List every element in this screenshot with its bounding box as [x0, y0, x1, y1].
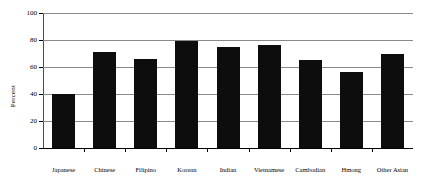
x-tick-label-vietnamese: Vietnamese	[254, 166, 284, 173]
plot-area	[43, 13, 413, 148]
y-tick-label-60: 60	[15, 63, 37, 71]
y-tick-40	[39, 94, 43, 95]
y-tick-0	[39, 148, 43, 149]
y-tick-60	[39, 67, 43, 68]
x-tick-label-hmong: Hmong	[342, 166, 362, 173]
bar-hmong	[340, 72, 363, 148]
bar-cambodian	[299, 60, 322, 148]
x-tick-label-japanese: Japanese	[52, 166, 75, 173]
bar-other-asian	[381, 54, 404, 149]
bar-filipino	[134, 59, 157, 148]
x-tick-4	[207, 149, 208, 152]
bar-chinese	[93, 52, 116, 148]
bar-vietnamese	[258, 45, 281, 148]
x-tick-8	[372, 149, 373, 152]
y-tick-label-40: 40	[15, 90, 37, 98]
y-tick-label-100: 100	[15, 9, 37, 17]
x-tick-5	[249, 149, 250, 152]
x-tick-label-chinese: Chinese	[94, 166, 115, 173]
x-tick-label-filipino: Filipino	[135, 166, 156, 173]
y-tick-label-80: 80	[15, 36, 37, 44]
y-tick-20	[39, 121, 43, 122]
x-tick-label-korean: Korean	[177, 166, 196, 173]
x-axis-line	[43, 148, 413, 149]
y-tick-80	[39, 40, 43, 41]
bar-indian	[217, 47, 240, 148]
bar-korean	[175, 41, 198, 148]
bar-japanese	[52, 94, 75, 148]
bar-chart: Percent JapaneseChineseFilipinoKoreanInd…	[0, 0, 428, 192]
x-tick-6	[290, 149, 291, 152]
x-tick-label-other-asian: Other Asian	[377, 166, 408, 173]
x-tick-2	[125, 149, 126, 152]
bar-series	[43, 13, 413, 148]
x-tick-label-cambodian: Cambodian	[295, 166, 325, 173]
x-tick-7	[331, 149, 332, 152]
y-tick-label-20: 20	[15, 117, 37, 125]
x-tick-label-indian: Indian	[220, 166, 237, 173]
x-tick-1	[84, 149, 85, 152]
y-tick-100	[39, 13, 43, 14]
x-tick-3	[166, 149, 167, 152]
y-tick-label-0: 0	[15, 144, 37, 152]
